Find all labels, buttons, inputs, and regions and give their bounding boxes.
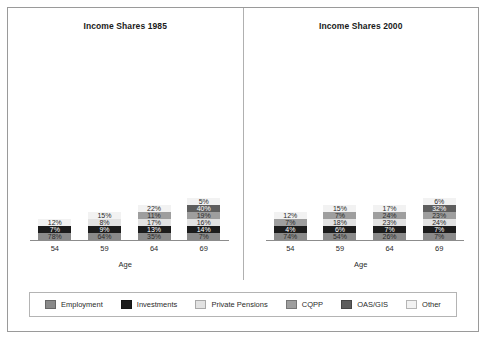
panel-1985: Income Shares 1985 12%7%78%15%8%9%64%22%… xyxy=(8,8,243,280)
bar-segment: 24% xyxy=(373,212,406,219)
bar-segment: 11% xyxy=(138,212,171,219)
chart-legend: EmploymentInvestmentsPrivate PensionsCQP… xyxy=(29,292,457,317)
x-tick-label: 54 xyxy=(274,244,307,258)
bar-segment: 4% xyxy=(274,226,307,233)
legend-label: Other xyxy=(422,300,441,309)
legend-item: Employment xyxy=(45,300,103,309)
segment-value-label: 11% xyxy=(147,212,161,219)
stacked-bar: 5%40%19%16%14%7% xyxy=(187,198,220,240)
segment-value-label: 7% xyxy=(199,233,209,240)
segment-value-label: 7% xyxy=(385,226,395,233)
segment-value-label: 15% xyxy=(333,205,347,212)
x-tick-label: 64 xyxy=(138,244,171,258)
legend-swatch-icon xyxy=(341,300,352,309)
segment-value-label: 7% xyxy=(434,226,444,233)
segment-value-label: 54% xyxy=(333,233,347,240)
segment-value-label: 6% xyxy=(434,198,444,205)
segment-value-label: 17% xyxy=(147,219,161,226)
plot-area-1985: 12%7%78%15%8%9%64%22%11%17%13%35%5%40%19… xyxy=(30,38,229,240)
segment-value-label: 8% xyxy=(99,219,109,226)
segment-value-label: 12% xyxy=(48,219,62,226)
segment-value-label: 5% xyxy=(199,198,209,205)
segment-value-label: 35% xyxy=(147,233,161,240)
bar-segment: 13% xyxy=(138,226,171,233)
bar-segment: 32% xyxy=(423,205,456,212)
segment-value-label: 40% xyxy=(197,205,211,212)
x-tick-label: 69 xyxy=(187,244,220,258)
bar-segment: 7% xyxy=(187,233,220,240)
bar-segment: 7% xyxy=(423,233,456,240)
bar-segment: 74% xyxy=(274,233,307,240)
stacked-bar: 12%7%78% xyxy=(38,219,71,240)
stacked-bar: 12%7%4%74% xyxy=(274,212,307,240)
segment-value-label: 7% xyxy=(285,219,295,226)
stacked-bar: 17%24%23%7%26% xyxy=(373,205,406,240)
bar-segment: 15% xyxy=(88,212,121,219)
segment-value-label: 23% xyxy=(432,212,446,219)
panel-title: Income Shares 1985 xyxy=(8,21,243,31)
legend-label: OAS/GIS xyxy=(357,300,388,309)
x-tick-label: 54 xyxy=(38,244,71,258)
x-axis-line xyxy=(30,240,229,241)
plot-area-2000: 12%7%4%74%15%7%18%6%54%17%24%23%7%26%6%3… xyxy=(266,38,465,240)
segment-value-label: 7% xyxy=(50,226,60,233)
bar-segment: 12% xyxy=(38,219,71,226)
segment-value-label: 18% xyxy=(333,219,347,226)
legend-swatch-icon xyxy=(286,300,297,309)
legend-swatch-icon xyxy=(406,300,417,309)
segment-value-label: 7% xyxy=(335,212,345,219)
legend-item: OAS/GIS xyxy=(341,300,388,309)
stacked-bar: 22%11%17%13%35% xyxy=(138,205,171,240)
bar-segment: 7% xyxy=(274,219,307,226)
bar-segment: 6% xyxy=(423,198,456,205)
bar-segment: 54% xyxy=(323,233,356,240)
bar-segment: 14% xyxy=(187,226,220,233)
chart-figure: Income Shares 1985 12%7%78%15%8%9%64%22%… xyxy=(7,7,479,332)
bar-segment: 64% xyxy=(88,233,121,240)
x-axis-label: Age xyxy=(8,260,243,269)
stacked-bar: 15%8%9%64% xyxy=(88,212,121,240)
segment-value-label: 16% xyxy=(197,219,211,226)
legend-label: Investments xyxy=(137,300,177,309)
bar-segment: 24% xyxy=(423,219,456,226)
segment-value-label: 15% xyxy=(97,212,111,219)
bar-segment: 78% xyxy=(38,233,71,240)
legend-item: Investments xyxy=(121,300,177,309)
segment-value-label: 13% xyxy=(147,226,161,233)
bar-segment: 7% xyxy=(38,226,71,233)
segment-value-label: 7% xyxy=(434,233,444,240)
segment-value-label: 32% xyxy=(432,205,446,212)
bar-segment: 17% xyxy=(373,205,406,212)
segment-value-label: 78% xyxy=(48,233,62,240)
legend-label: CQPP xyxy=(302,300,323,309)
bar-segment: 22% xyxy=(138,205,171,212)
segment-value-label: 12% xyxy=(283,212,297,219)
x-tick-label: 69 xyxy=(423,244,456,258)
segment-value-label: 26% xyxy=(383,233,397,240)
x-axis-line xyxy=(266,240,465,241)
segment-value-label: 4% xyxy=(285,226,295,233)
bar-segment: 40% xyxy=(187,205,220,212)
bar-segment: 8% xyxy=(88,219,121,226)
segment-value-label: 17% xyxy=(383,205,397,212)
bar-segment: 7% xyxy=(373,226,406,233)
segment-value-label: 24% xyxy=(383,212,397,219)
panel-title: Income Shares 2000 xyxy=(244,21,479,31)
legend-label: Private Pensions xyxy=(211,300,267,309)
segment-value-label: 19% xyxy=(197,212,211,219)
segment-value-label: 64% xyxy=(97,233,111,240)
bar-segment: 16% xyxy=(187,219,220,226)
legend-item: Other xyxy=(406,300,441,309)
bar-segment: 23% xyxy=(373,219,406,226)
panel-2000: Income Shares 2000 12%7%4%74%15%7%18%6%5… xyxy=(243,8,479,280)
bar-segment: 23% xyxy=(423,212,456,219)
x-tick-label: 59 xyxy=(88,244,121,258)
bar-segment: 9% xyxy=(88,226,121,233)
bar-segment: 19% xyxy=(187,212,220,219)
legend-swatch-icon xyxy=(121,300,132,309)
x-axis-ticks: 54596469 xyxy=(30,244,229,258)
legend-swatch-icon xyxy=(195,300,206,309)
bar-segment: 18% xyxy=(323,219,356,226)
panels-container: Income Shares 1985 12%7%78%15%8%9%64%22%… xyxy=(8,8,478,280)
x-tick-label: 59 xyxy=(323,244,356,258)
